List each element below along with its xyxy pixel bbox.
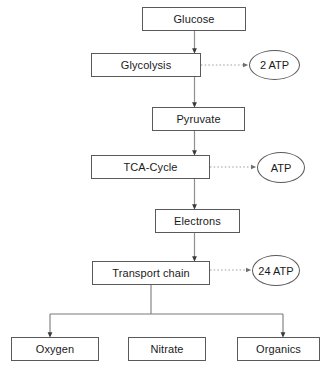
node-atp-label: ATP [271,162,292,174]
node-oxygen[interactable]: Oxygen [11,337,99,361]
node-24-atp-label: 24 ATP [258,265,293,277]
respiration-flowchart: Glucose Glycolysis 2 ATP Pyruvate TCA-Cy… [0,0,328,369]
node-transport-chain-label: Transport chain [112,267,190,279]
node-glycolysis-label: Glycolysis [121,59,172,71]
node-nitrate[interactable]: Nitrate [128,337,206,361]
node-2-atp[interactable]: 2 ATP [249,50,300,80]
node-organics-label: Organics [256,343,301,355]
node-electrons[interactable]: Electrons [155,209,240,233]
node-atp[interactable]: ATP [257,152,305,183]
node-electrons-label: Electrons [174,215,221,227]
node-nitrate-label: Nitrate [150,343,183,355]
node-tca-cycle[interactable]: TCA-Cycle [91,155,210,179]
node-glucose[interactable]: Glucose [142,7,246,31]
node-glycolysis[interactable]: Glycolysis [91,53,201,77]
node-24-atp[interactable]: 24 ATP [252,255,300,286]
node-organics[interactable]: Organics [237,337,320,361]
node-transport-chain[interactable]: Transport chain [92,261,210,285]
node-pyruvate[interactable]: Pyruvate [152,107,245,131]
node-tca-cycle-label: TCA-Cycle [123,161,177,173]
node-pyruvate-label: Pyruvate [176,113,220,125]
node-glucose-label: Glucose [173,13,214,25]
node-oxygen-label: Oxygen [36,343,75,355]
node-2-atp-label: 2 ATP [260,59,289,71]
